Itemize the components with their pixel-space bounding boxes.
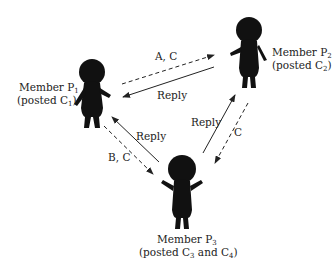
member-p3-posted: (posted C3 and C4) <box>139 246 238 260</box>
member-p3-figure-icon <box>161 155 203 229</box>
member-p1-name: Member P1 <box>19 81 79 95</box>
messaging-diagram: A, C Reply Reply B, C Reply C Member P1 … <box>0 0 336 268</box>
member-p1-figure-icon <box>74 59 111 128</box>
edge-label-a-c: A, C <box>154 50 177 62</box>
arrow-p2-to-p3-dashed <box>215 103 248 163</box>
edge-label-reply-p2-p1: Reply <box>157 89 187 101</box>
edge-label-reply-p3-p2: Reply <box>191 116 221 128</box>
member-p2-name: Member P2 <box>272 46 332 60</box>
member-p2-figure-icon <box>230 17 267 88</box>
member-p1-posted: (posted C1) <box>17 94 77 108</box>
member-p2-posted: (posted C2) <box>272 59 332 73</box>
edge-label-c: C <box>234 126 242 138</box>
member-p3-name: Member P3 <box>157 233 217 247</box>
edge-label-b-c: B, C <box>108 151 130 163</box>
edge-label-reply-p3-p1: Reply <box>136 130 166 142</box>
